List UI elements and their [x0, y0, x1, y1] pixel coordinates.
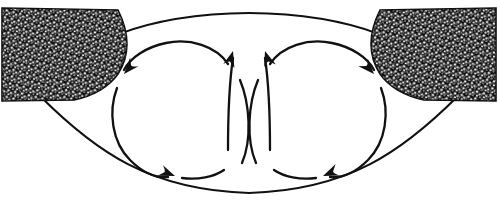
central-upwelling-left-branch — [228, 58, 233, 150]
right-cell-inner-arc — [249, 80, 258, 163]
left-cell-top-arc — [124, 42, 228, 70]
left-cell-inner-arc — [240, 80, 249, 163]
body-bottom-arc — [40, 96, 458, 193]
central-upwelling-right-branch — [265, 58, 270, 150]
left-cell-bottom-arc — [182, 170, 224, 179]
right-cell-outer-arc — [330, 88, 386, 177]
stipple-wedge-right-overlay — [298, 0, 498, 120]
convection-cell-figure — [0, 0, 498, 214]
stipple-wedge-right — [298, 0, 498, 120]
left-cell-outer-arc — [112, 88, 168, 177]
figure-canvas — [0, 0, 498, 214]
right-cell-top-arc — [270, 42, 374, 70]
stipple-wedge-left — [0, 0, 200, 120]
stipple-wedge-left-overlay — [0, 0, 200, 120]
right-cell-bottom-arc — [274, 170, 316, 179]
